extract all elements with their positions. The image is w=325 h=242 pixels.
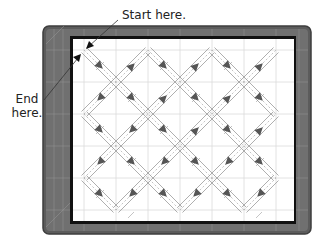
end-here-label: End here. <box>10 92 44 120</box>
quilting-diagram: Start here. End here. <box>0 0 325 242</box>
diagram-canvas <box>0 0 325 242</box>
end-label-line2: here. <box>10 106 44 120</box>
start-here-label: Start here. <box>122 8 186 22</box>
end-label-line1: End <box>10 92 44 106</box>
